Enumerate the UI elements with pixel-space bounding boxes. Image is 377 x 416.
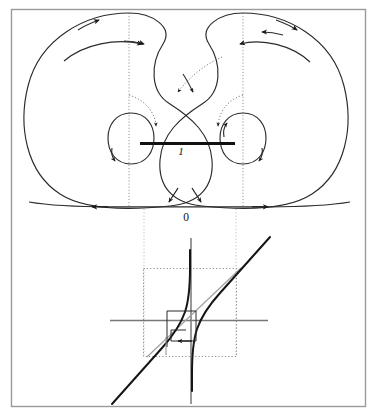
left-orbit-top-arrow [78, 20, 99, 30]
left-dotted-descent [129, 95, 156, 126]
origin-left-inflow-arrow [169, 188, 178, 202]
label-zero: 0 [183, 211, 189, 223]
zero-level-line [29, 202, 350, 207]
return-map-left-branch [112, 250, 190, 404]
lower-panel [110, 237, 270, 404]
figure-root: · [0, 0, 377, 416]
right-interior-flow-arc [240, 42, 310, 62]
left-loop-bottom-arrow [112, 148, 115, 161]
figure-frame [12, 10, 366, 407]
right-loop-bottom-arrow [259, 148, 262, 161]
page-margin-note: · [1, 28, 11, 178]
left-outer-orbit [24, 13, 212, 208]
left-interior-flow-arc [64, 42, 142, 61]
right-orbit-upper-left-arrow [262, 32, 283, 35]
center-down-right-arrow [183, 74, 193, 92]
right-dotted-descent [218, 95, 243, 126]
left-inner-loop [108, 113, 154, 164]
phase-portrait-figure: 1 0 [0, 0, 377, 416]
dotted-vertical-guides [129, 13, 243, 209]
right-loop-inner-up-arrow [224, 123, 227, 137]
label-one: 1 [178, 145, 184, 157]
return-map-right-branch [192, 237, 270, 391]
